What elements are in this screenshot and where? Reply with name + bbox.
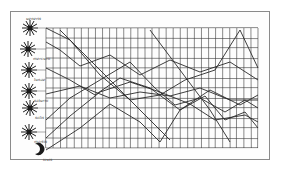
header-label: ueneris	[26, 16, 41, 21]
curve-diagonal-1	[60, 30, 170, 140]
grid-horizontal-line	[46, 38, 258, 39]
planet-label: lunae	[34, 77, 46, 82]
grid-horizontal-line	[46, 78, 258, 79]
star-icon-3: lunae	[21, 62, 46, 82]
star-icon-5: solis	[22, 100, 46, 120]
grid-horizontal-line	[46, 58, 258, 59]
planetary-diagram: mercuriilunaesaturnisolismartisiovis uen…	[0, 0, 283, 170]
planet-label: solis	[35, 115, 44, 120]
planet-label: mercurii	[33, 56, 51, 61]
planet-symbols: mercuriilunaesaturnisolismartisiovis	[20, 20, 52, 162]
crescent-moon-icon: iovis	[35, 143, 52, 162]
star-icon-4: saturni	[21, 83, 49, 103]
star-icon-2: mercurii	[20, 41, 51, 61]
curve-diagonal-2	[150, 30, 230, 142]
star-icon-1	[22, 20, 46, 36]
planet-label: martis	[34, 139, 47, 144]
star-icon-6: martis	[21, 124, 47, 144]
planet-label: iovis	[43, 157, 52, 162]
grid-horizontal-line	[46, 138, 258, 139]
planet-label: saturni	[34, 98, 49, 103]
